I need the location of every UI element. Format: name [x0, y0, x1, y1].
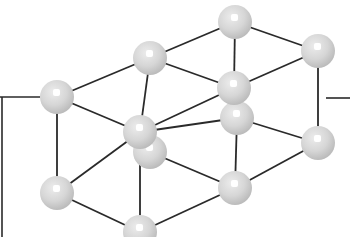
atom-D: [40, 80, 74, 114]
highlight-icon: [230, 80, 237, 87]
highlight-icon: [146, 50, 153, 57]
highlight-icon: [233, 110, 240, 117]
lattice-svg: [0, 0, 350, 237]
crystal-lattice-diagram: [0, 0, 350, 237]
atom-A: [133, 41, 167, 75]
highlight-icon: [231, 180, 238, 187]
highlight-icon: [136, 224, 143, 231]
highlight-icon: [231, 14, 238, 21]
atoms: [40, 5, 335, 237]
atom-C: [301, 34, 335, 68]
atom-L: [123, 215, 157, 237]
highlight-icon: [136, 124, 143, 131]
atom-F: [123, 115, 157, 149]
highlight-icon: [53, 185, 60, 192]
atom-H: [220, 101, 254, 135]
bonds: [57, 22, 318, 232]
atom-K: [301, 126, 335, 160]
highlight-icon: [314, 43, 321, 50]
highlight-icon: [314, 135, 321, 142]
atom-J: [218, 171, 252, 205]
atom-B: [218, 5, 252, 39]
atom-I: [40, 176, 74, 210]
highlight-icon: [53, 89, 60, 96]
atom-E: [217, 71, 251, 105]
